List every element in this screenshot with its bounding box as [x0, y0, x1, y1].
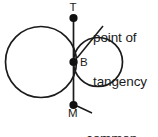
annotation-common-tangent: common tangent: [86, 103, 137, 137]
left-circle: [6, 27, 77, 98]
point-label-b: B: [80, 57, 88, 69]
annotation-point-of-tangency-line2: tangency: [93, 75, 147, 90]
point-label-t: T: [70, 2, 77, 14]
geometry-figure: T B M point of tangency common tangent: [0, 0, 158, 137]
point-dot-b: [69, 58, 77, 66]
annotation-point-of-tangency-line1: point of: [93, 31, 147, 46]
annotation-point-of-tangency: point of tangency: [93, 2, 147, 119]
point-label-m: M: [68, 108, 78, 120]
annotation-common-tangent-line1: common: [86, 132, 137, 137]
point-dot-t: [69, 14, 77, 22]
